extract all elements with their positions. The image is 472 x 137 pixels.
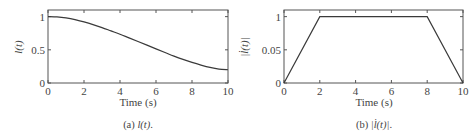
figure-caption: (b) |l̇(t)|. [356, 119, 392, 131]
x-tick-label: 8 [424, 85, 430, 97]
chart-b-svg: 024681000.051 Time (s) |l̇(t)| (b) |l̇(t… [236, 0, 472, 137]
series-line [284, 17, 463, 83]
y-tick-label: 0.5 [31, 44, 45, 56]
y-tick-label: 0 [40, 77, 46, 89]
chart-panel-a: 024681000.51 Time (s) l(t) (a) l(t). [0, 0, 236, 137]
series-line [48, 17, 228, 70]
chart-a-axes: 024681000.51 [31, 10, 234, 97]
chart-b-axes: 024681000.051 [262, 10, 469, 97]
x-tick-label: 0 [281, 85, 287, 97]
x-tick-label: 10 [223, 85, 235, 97]
y-axis-label: l(t) [12, 40, 25, 54]
chart-a-svg: 024681000.51 Time (s) l(t) (a) l(t). [0, 0, 236, 137]
x-tick-label: 2 [81, 85, 87, 97]
x-tick-label: 0 [45, 85, 51, 97]
plot-frame [284, 10, 463, 83]
x-tick-label: 8 [189, 85, 195, 97]
plot-frame [48, 10, 228, 83]
x-tick-label: 2 [317, 85, 323, 97]
x-tick-label: 10 [458, 85, 470, 97]
y-tick-label: 1 [40, 11, 46, 23]
y-axis-label: |l̇(t)| [238, 37, 251, 57]
x-axis-label: Time (s) [355, 96, 393, 109]
chart-panel-b: 024681000.051 Time (s) |l̇(t)| (b) |l̇(t… [236, 0, 472, 137]
y-tick-label: 0 [276, 77, 282, 89]
x-axis-label: Time (s) [119, 96, 157, 109]
y-tick-label: 1 [276, 11, 282, 23]
figure-caption: (a) l(t). [123, 119, 153, 131]
y-tick-label: 0.05 [262, 44, 282, 56]
